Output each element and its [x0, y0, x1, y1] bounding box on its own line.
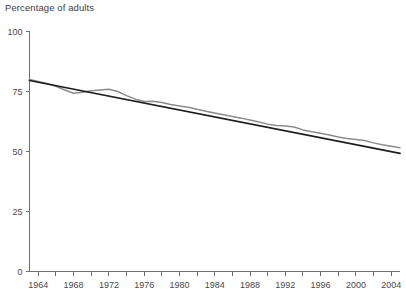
x-tick-label: 1996 — [311, 280, 331, 290]
x-tick-label: 1968 — [64, 280, 84, 290]
y-tick-label: 50 — [12, 147, 22, 157]
x-tick-label: 1988 — [240, 280, 260, 290]
x-tick-label: 1972 — [99, 280, 119, 290]
x-tick-label: 2004 — [381, 280, 401, 290]
chart-container: Percentage of adults 0255075100 19641968… — [0, 0, 406, 298]
x-tick-label: 1980 — [169, 280, 189, 290]
y-tick-label: 100 — [7, 27, 22, 37]
x-tick-label: 1964 — [28, 280, 48, 290]
y-tick-label: 25 — [12, 207, 22, 217]
x-tick-label: 2000 — [346, 280, 366, 290]
y-tick-label: 75 — [12, 87, 22, 97]
series-line-observed — [30, 80, 401, 148]
x-tick-label: 1992 — [275, 280, 295, 290]
line-chart-plot: 0255075100 19641968197219761980198419881… — [0, 0, 406, 298]
y-tick-label: 0 — [17, 267, 22, 277]
axis-layer — [30, 32, 401, 272]
series-layer — [30, 80, 401, 154]
x-tick-label: 1976 — [134, 280, 154, 290]
x-tick-layer: 1964196819721976198019841988199219962000… — [28, 272, 401, 290]
x-tick-label: 1984 — [205, 280, 225, 290]
series-line-trend — [30, 80, 401, 153]
y-tick-layer: 0255075100 — [7, 27, 29, 277]
